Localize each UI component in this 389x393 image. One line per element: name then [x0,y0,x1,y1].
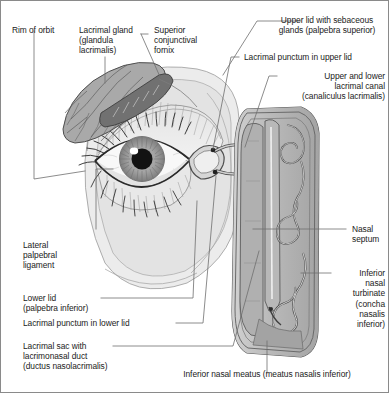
label-lower-lid: Lower lid (palpebra inferior) [23,293,88,313]
label-inferior-nasal-turbinate: Inferior nasal turbinate (concha nasalis… [319,268,385,329]
label-lacrimal-punctum-lower: Lacrimal punctum in lower lid [23,318,130,328]
label-lacrimal-canal: Upper and lower lacrimal canal (canalicu… [269,71,385,102]
label-upper-lid: Upper lid with sebaceous glands (palpebr… [269,15,385,35]
label-inferior-nasal-meatus: Inferior nasal meatus (meatus nasalis in… [161,369,373,379]
iris-and-pupil [120,137,165,182]
label-lacrimal-punctum-upper: Lacrimal punctum in upper lid [244,52,352,62]
label-lateral-palpebral-ligament: Lateral palpebral ligament [23,240,57,271]
label-lacrimal-gland: Lacrimal gland (glandula lacrimalis) [79,25,133,56]
nasal-cavity-cross-section [229,101,323,363]
figure-frame: Rim of orbit Lacrimal gland (glandula la… [0,0,389,393]
label-superior-conjunctival-fornix: Superior conjunctival fornix [154,25,197,56]
label-rim-of-orbit: Rim of orbit [12,25,54,35]
label-lacrimal-sac: Lacrimal sac with lacrimonasal duct (duc… [23,341,108,372]
label-nasal-septum: Nasal septum [352,224,379,244]
